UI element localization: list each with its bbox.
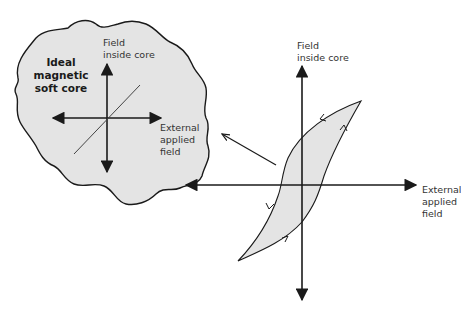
hysteresis-loop <box>238 101 361 261</box>
loop-direction-arrow-left <box>266 203 274 209</box>
hysteresis-plot <box>186 66 416 300</box>
inset-y-axis-label: Field inside core <box>103 37 155 61</box>
main-y-axis-label: Field inside core <box>297 40 349 64</box>
pointer-arrow <box>222 134 276 165</box>
inset-title: Ideal magnetic soft core <box>30 56 92 95</box>
inset-x-axis-label: External applied field <box>160 122 199 158</box>
main-x-axis-label: External applied field <box>422 184 461 220</box>
